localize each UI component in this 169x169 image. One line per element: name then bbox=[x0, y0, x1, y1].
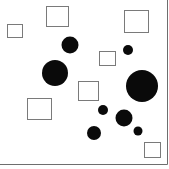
shapes-diagram bbox=[0, 0, 169, 169]
circle-7 bbox=[87, 126, 101, 140]
circle-4 bbox=[126, 70, 158, 102]
circle-3 bbox=[123, 45, 133, 55]
circle-2 bbox=[42, 60, 68, 86]
circle-5 bbox=[98, 105, 108, 115]
circle-6 bbox=[116, 110, 133, 127]
circle-8 bbox=[134, 127, 143, 136]
circle-1 bbox=[62, 37, 79, 54]
diagram-svg bbox=[0, 0, 169, 169]
